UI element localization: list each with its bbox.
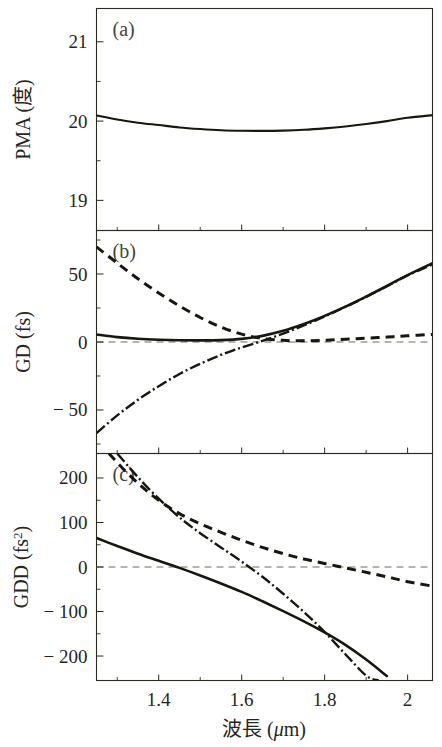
y-axis-title-text: GDD (fs2) [10, 526, 33, 609]
curve-solid [97, 115, 433, 131]
curve-dashed [97, 247, 433, 341]
figure-container: 192021(a)PMA (度) − 50050(b)GD (fs) − 200… [0, 0, 442, 747]
y-tick-label: 100 [59, 512, 88, 533]
y-tick-label: 0 [78, 557, 88, 578]
y-tick-label: − 200 [44, 646, 88, 667]
y-tick-label: 50 [69, 264, 88, 285]
panel-a-series [97, 115, 433, 131]
x-axis-title-main: 波長 ( [222, 718, 274, 741]
y-axis-title-close-paren: ) [10, 526, 33, 533]
panel-a-label: (a) [113, 18, 135, 41]
x-axis: 1.41.61.82 [147, 689, 413, 710]
y-tick-label: − 50 [53, 399, 87, 420]
y-tick-label: 21 [69, 31, 88, 52]
panel-c: − 200− 1000100200(c)GDD (fs2) [10, 454, 433, 681]
x-tick-label: 1.8 [313, 689, 337, 710]
y-tick-label: 20 [69, 111, 88, 132]
y-tick-label: 0 [78, 332, 88, 353]
three-panel-dispersion-figure: 192021(a)PMA (度) − 50050(b)GD (fs) − 200… [0, 0, 442, 747]
panel-a-frame [97, 9, 433, 231]
x-tick-label: 1.6 [230, 689, 254, 710]
panel-a-y-axis-title: PMA (度) [12, 79, 35, 160]
x-axis-title-mu: μ [273, 718, 284, 741]
panel-c-label: (c) [113, 463, 135, 486]
x-axis-title: 波長 (μm) [222, 718, 306, 741]
curve-dashed [109, 454, 433, 587]
x-tick-label: 1.4 [147, 689, 171, 710]
y-tick-label: 200 [59, 467, 88, 488]
panel-b: − 50050(b)GD (fs) [12, 231, 433, 454]
curve-solid [97, 263, 433, 340]
x-axis-title-tail: m) [284, 718, 306, 741]
panel-b-series [97, 247, 433, 433]
y-tick-label: 19 [69, 190, 88, 211]
panel-b-y-axis-title: GD (fs) [12, 311, 35, 373]
panel-c-y-axis-title: GDD (fs2) [10, 526, 33, 609]
panel-a: 192021(a)PMA (度) [12, 9, 433, 231]
y-tick-label: − 100 [44, 601, 88, 622]
panel-b-label: (b) [113, 240, 136, 263]
curve-solid [97, 538, 387, 676]
y-axis-title-text: PMA (度) [12, 79, 35, 160]
x-tick-label: 2 [403, 689, 413, 710]
y-axis-title-text: GD (fs) [12, 311, 35, 373]
